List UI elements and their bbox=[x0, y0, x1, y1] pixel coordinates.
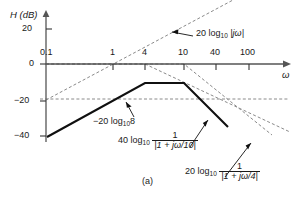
annotation-constant-subscript: 10 bbox=[123, 120, 130, 127]
x-tick-label-0-1: 0.1 bbox=[40, 48, 53, 57]
y-axis-title: H (dB) bbox=[10, 10, 37, 20]
y-tick-label-0: 0 bbox=[29, 59, 34, 68]
annotation-constant-term: −20 log108 bbox=[93, 117, 135, 127]
annotation-pole4-subscript: 10 bbox=[210, 170, 217, 177]
annotation-pole10-prefix: 40 log bbox=[118, 135, 143, 145]
asymptote-pole4-line bbox=[46, 64, 290, 132]
annotation-pole10-subscript: 10 bbox=[143, 139, 150, 146]
figure-caption: (a) bbox=[142, 177, 153, 186]
x-tick-label-4: 4 bbox=[142, 48, 147, 57]
annotation-gain-argument: |jω| bbox=[230, 28, 244, 38]
annotation-gain-subscript: 10 bbox=[221, 32, 228, 39]
annotation-pole10-denominator: |1 + jω/10| bbox=[152, 141, 197, 150]
axes bbox=[43, 10, 291, 142]
bode-plot-figure: H (dB) 20 0 −20 −40 0.1 1 4 10 40 100 ω … bbox=[0, 0, 296, 199]
annotation-gain-term: 20 log10 |jω| bbox=[196, 29, 244, 39]
annotation-constant-prefix: −20 log bbox=[93, 116, 123, 126]
annotation-pole10-fraction: 1 |1 + jω/10| bbox=[152, 131, 197, 150]
x-axis-ticks bbox=[113, 64, 249, 70]
x-axis-title: ω bbox=[282, 70, 289, 80]
x-tick-label-100: 100 bbox=[240, 48, 255, 57]
annotation-leader-constant bbox=[126, 102, 134, 117]
annotation-pole4-prefix: 20 log bbox=[185, 166, 210, 176]
y-tick-label-minus-20: −20 bbox=[14, 96, 29, 105]
x-tick-label-40: 40 bbox=[210, 48, 220, 57]
y-tick-label-20: 20 bbox=[22, 24, 32, 33]
x-tick-label-10: 10 bbox=[178, 48, 188, 57]
y-tick-label-minus-40: −40 bbox=[14, 131, 29, 140]
y-axis-title-text: H (dB) bbox=[10, 9, 37, 20]
annotation-gain-prefix: 20 log bbox=[196, 28, 221, 38]
annotation-pole4-denominator: |1 + jω/4| bbox=[219, 172, 259, 181]
annotation-pole4-term: 20 log10 1 |1 + jω/4| bbox=[185, 162, 260, 181]
annotation-leader-gain bbox=[172, 29, 193, 36]
resultant-magnitude-curve bbox=[47, 83, 228, 137]
annotation-pole4-fraction: 1 |1 + jω/4| bbox=[219, 162, 259, 181]
x-axis-title-text: ω bbox=[282, 69, 289, 80]
annotation-pole10-term: 40 log10 1 |1 + jω/10| bbox=[118, 131, 198, 150]
annotation-constant-argument: 8 bbox=[130, 116, 135, 126]
x-tick-label-1: 1 bbox=[110, 48, 115, 57]
